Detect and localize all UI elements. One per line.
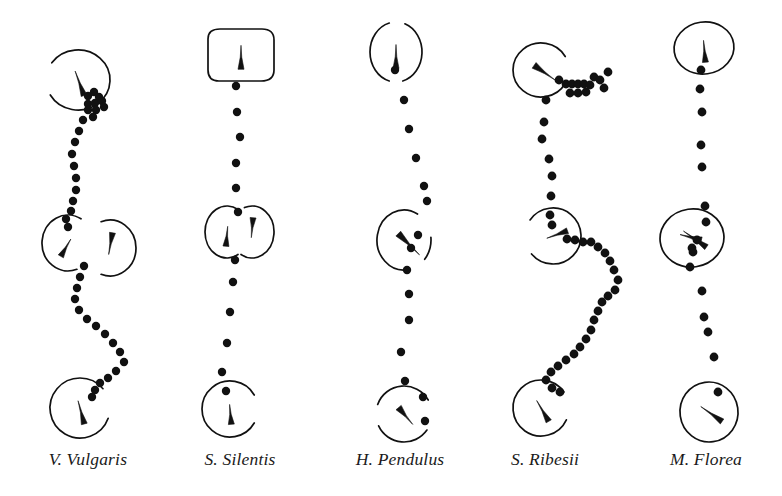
trajectory-dot <box>606 257 615 266</box>
direction-wedge <box>58 239 71 258</box>
direction-wedge <box>393 45 399 69</box>
trajectory-dot <box>96 379 104 387</box>
trajectory-figure: V. VulgarisS. SilentisH. PendulusS. Ribe… <box>0 0 782 496</box>
panel-caption-v-vulgaris: V. Vulgaris <box>49 449 127 470</box>
trajectory-dot <box>576 343 585 352</box>
trajectory-dot <box>218 368 226 376</box>
trajectory-dot <box>710 353 719 362</box>
trajectory-dot <box>100 103 108 111</box>
panel-s-ribesii <box>513 43 622 436</box>
direction-wedge <box>109 232 116 254</box>
panel-h-pendulus <box>370 23 431 442</box>
trajectory-dot <box>83 315 91 323</box>
trajectory-dot <box>116 348 124 356</box>
trajectory-dot <box>62 215 70 223</box>
trajectory-dot <box>79 116 87 124</box>
trajectory-dot <box>229 278 237 286</box>
trajectory-dot <box>80 262 88 270</box>
trajectory-dot <box>542 376 551 385</box>
trajectory-dot <box>71 295 79 303</box>
trajectory-dot <box>571 236 580 245</box>
trajectory-dot <box>400 96 408 104</box>
trajectory-dot <box>226 308 234 316</box>
trajectory-dot <box>587 326 596 335</box>
loop-marker <box>205 206 238 258</box>
trajectory-dot <box>689 248 698 257</box>
trajectory-dot <box>547 368 556 377</box>
trajectory-dot <box>594 243 603 252</box>
trajectory-dot <box>391 66 399 74</box>
panel-caption-m-florea: M. Florea <box>670 449 742 470</box>
trajectory-dot <box>120 358 128 366</box>
panel-v-vulgaris <box>42 50 136 438</box>
trajectory-dot <box>403 266 411 274</box>
trajectory-dot <box>696 85 705 94</box>
loop-marker <box>377 210 418 270</box>
trajectory-dot <box>64 223 72 231</box>
trajectory-dot <box>570 350 579 359</box>
loop-marker <box>101 220 136 276</box>
trajectory-dot <box>538 135 547 144</box>
trajectory-dot <box>594 307 603 316</box>
direction-wedge <box>396 405 413 424</box>
trajectory-dot <box>88 393 96 401</box>
trajectory-dot <box>234 208 242 216</box>
trajectory-dot <box>582 335 591 344</box>
trajectory-dot <box>566 89 575 98</box>
trajectory-dot <box>232 184 240 192</box>
trajectory-dot <box>109 339 117 347</box>
trajectory-dot <box>611 286 620 295</box>
trajectory-dot <box>92 322 100 330</box>
trajectory-dot <box>412 154 420 162</box>
trajectory-dot <box>101 330 109 338</box>
trajectory-dot <box>554 362 563 371</box>
loop-marker <box>42 215 81 271</box>
trajectory-dot <box>702 218 711 227</box>
trajectory-dot <box>70 162 78 170</box>
trajectory-dot <box>73 284 81 292</box>
trajectory-dot <box>596 76 605 85</box>
trajectory-dot <box>222 387 230 395</box>
trajectory-dot <box>405 316 413 324</box>
trajectory-dot <box>71 138 79 146</box>
trajectory-dot <box>600 84 609 93</box>
trajectory-dot <box>69 197 77 205</box>
trajectory-dot <box>67 207 75 215</box>
trajectory-dot <box>598 298 607 307</box>
trajectory-dot <box>693 236 702 245</box>
direction-wedge <box>238 45 244 69</box>
trajectory-dot <box>72 174 80 182</box>
trajectory-dot <box>232 82 240 90</box>
trajectory-dot <box>414 231 422 239</box>
trajectory-dot <box>75 127 83 135</box>
trajectory-dot <box>420 182 428 190</box>
trajectory-dot <box>579 238 588 247</box>
trajectory-dot <box>686 263 695 272</box>
trajectory-dot <box>104 374 112 382</box>
trajectory-dot <box>231 256 239 264</box>
panel-caption-s-silentis: S. Silentis <box>204 449 275 470</box>
trajectory-dot <box>397 348 405 356</box>
trajectory-dot <box>419 393 427 401</box>
trajectory-dot <box>421 417 429 425</box>
direction-wedge <box>702 40 708 62</box>
trajectory-dot <box>582 88 591 97</box>
trajectory-dot <box>112 367 120 375</box>
trajectory-dot <box>407 244 415 252</box>
trajectory-dot <box>405 125 413 133</box>
trajectory-dot <box>701 202 710 211</box>
trajectory-dot <box>556 388 565 397</box>
trajectory-dot <box>548 384 557 393</box>
trajectory-dot <box>697 66 706 75</box>
trajectory-dot <box>232 159 240 167</box>
trajectory-dot <box>698 163 707 172</box>
trajectory-dot <box>236 133 244 141</box>
trajectory-dot <box>75 306 83 314</box>
trajectory-dot <box>548 172 557 181</box>
panel-caption-h-pendulus: H. Pendulus <box>356 449 445 470</box>
direction-wedge <box>250 217 256 237</box>
trajectory-dot <box>704 328 713 337</box>
direction-wedge <box>701 407 724 424</box>
trajectory-dot <box>610 266 619 275</box>
panel-caption-s-ribesii: S. Ribesii <box>511 449 579 470</box>
